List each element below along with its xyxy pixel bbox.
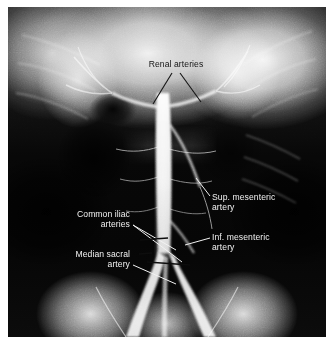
leader-common-iliac-arteries-1 [133, 225, 182, 262]
leader-line-group [133, 73, 210, 284]
leader-iliac-tip-lower [139, 253, 152, 254]
leader-iliac-tip-upper [140, 238, 168, 240]
label-median-sacral-artery: Median sacral artery [36, 249, 130, 270]
leader-median-sacral-artery-0 [133, 265, 176, 284]
label-sup-mesenteric-artery: Sup. mesenteric artery [212, 192, 316, 213]
leader-renal-arteries-1 [180, 73, 201, 102]
label-renal-arteries: Renal arteries [132, 59, 220, 69]
leader-inf-mesenteric-artery-0 [185, 238, 210, 245]
leader-sup-mesenteric-artery-0 [196, 178, 210, 196]
aortogram-figure: Renal arteries Sup. mesenteric artery In… [0, 0, 331, 345]
leader-common-iliac-arteries-0 [133, 225, 176, 250]
leader-renal-arteries-0 [153, 73, 172, 104]
label-inf-mesenteric-artery: Inf. mesenteric artery [212, 232, 316, 253]
leader-bifurcation-bar [147, 262, 190, 265]
annotation-leaders [0, 0, 331, 345]
label-common-iliac-arteries: Common iliac arteries [36, 209, 130, 230]
